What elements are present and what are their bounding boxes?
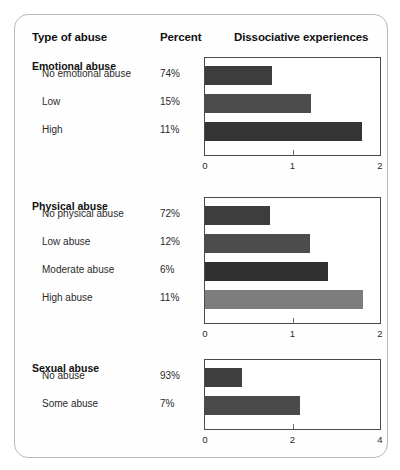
x-axis-tick-label: 4 <box>377 434 382 445</box>
bar <box>205 396 300 415</box>
percent-value: 72% <box>160 208 180 219</box>
column-header-dissociative-experiences: Dissociative experiences <box>234 31 368 43</box>
percent-value: 11% <box>160 124 179 135</box>
x-axis-tick-label: 1 <box>290 328 295 339</box>
plot-area-3 <box>204 359 381 430</box>
category-label: Moderate abuse <box>42 264 114 275</box>
category-label: No physical abuse <box>42 208 124 219</box>
category-label: Some abuse <box>42 398 98 409</box>
plot-area-1 <box>204 57 381 156</box>
category-label: High <box>42 124 63 135</box>
x-axis-tick-label: 0 <box>202 160 207 171</box>
category-label: Low abuse <box>42 236 90 247</box>
bar <box>205 262 328 281</box>
bar <box>205 94 311 113</box>
x-axis-tick-label: 1 <box>290 160 295 171</box>
percent-value: 6% <box>160 264 174 275</box>
percent-value: 7% <box>160 398 174 409</box>
x-axis-2: 012 <box>204 325 379 339</box>
x-axis-tick-label: 0 <box>202 434 207 445</box>
percent-value: 15% <box>160 96 180 107</box>
x-axis-tick-label: 2 <box>377 328 382 339</box>
axis-tick-inner <box>293 318 294 323</box>
percent-value: 74% <box>160 68 180 79</box>
column-header-percent: Percent <box>160 31 202 43</box>
bar <box>205 122 362 141</box>
axis-tick-inner <box>293 424 294 429</box>
bar <box>205 206 270 225</box>
axis-tick-inner <box>293 150 294 155</box>
column-header-row: Type of abuse Percent Dissociative exper… <box>15 29 387 51</box>
bar <box>205 368 242 387</box>
x-axis-tick-label: 0 <box>202 328 207 339</box>
bar <box>205 234 310 253</box>
x-axis-1: 012 <box>204 157 379 171</box>
percent-value: 93% <box>160 370 180 381</box>
bar <box>205 290 363 309</box>
x-axis-tick-label: 2 <box>290 434 295 445</box>
percent-value: 11% <box>160 292 179 303</box>
x-axis-tick-label: 2 <box>377 160 382 171</box>
column-header-type-of-abuse: Type of abuse <box>32 31 107 43</box>
category-label: High abuse <box>42 292 93 303</box>
category-label: No abuse <box>42 370 85 381</box>
x-axis-3: 024 <box>204 431 379 445</box>
category-label: Low <box>42 96 60 107</box>
category-label: No emotional abuse <box>42 68 131 79</box>
bar <box>205 66 272 85</box>
plot-area-2 <box>204 197 381 324</box>
figure-card: Type of abuse Percent Dissociative exper… <box>14 14 388 458</box>
percent-value: 12% <box>160 236 180 247</box>
